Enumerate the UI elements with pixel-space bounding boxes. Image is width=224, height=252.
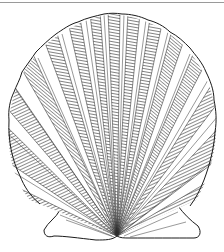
shell-body bbox=[0, 0, 224, 252]
scallop-shell-illustration bbox=[0, 0, 224, 252]
illustration-frame bbox=[0, 0, 224, 252]
